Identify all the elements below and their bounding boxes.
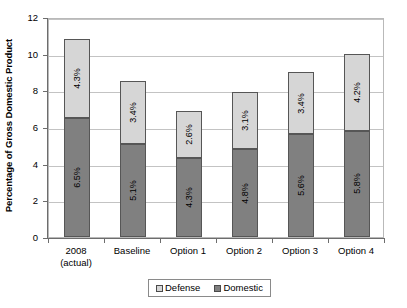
- bar-value-label: 5.8%: [352, 174, 361, 195]
- bar-value-label: 4.8%: [240, 183, 249, 204]
- y-tick-label: 4: [14, 160, 38, 170]
- y-tick-label: 2: [14, 196, 38, 206]
- legend-label-domestic: Domestic: [223, 283, 263, 293]
- x-axis-category-label-line1: Option 2: [226, 245, 262, 256]
- x-tick-mark: [48, 239, 49, 243]
- bar-segment-domestic[interactable]: 6.5%: [64, 118, 90, 237]
- x-axis-category-label-line1: Option 4: [338, 245, 374, 256]
- gridline: [49, 129, 383, 130]
- chart-legend: Defense Domestic: [148, 279, 271, 297]
- gridline: [49, 19, 383, 20]
- bar-segment-defense[interactable]: 3.1%: [232, 92, 258, 149]
- bar-group[interactable]: 5.1%3.4%: [120, 17, 146, 237]
- x-tick-mark: [160, 239, 161, 243]
- legend-swatch-domestic-icon: [214, 285, 221, 292]
- bar-value-label: 4.3%: [184, 187, 193, 208]
- bar-segment-defense[interactable]: 4.3%: [64, 39, 90, 118]
- gridline: [49, 92, 383, 93]
- bar-segment-domestic[interactable]: 5.6%: [288, 134, 314, 237]
- bar-value-label: 4.3%: [72, 68, 81, 89]
- bar-segment-domestic[interactable]: 5.1%: [120, 144, 146, 238]
- x-tick-mark: [104, 239, 105, 243]
- bar-segment-domestic[interactable]: 4.8%: [232, 149, 258, 237]
- y-tick-label: 10: [14, 50, 38, 60]
- bar-group[interactable]: 4.8%3.1%: [232, 17, 258, 237]
- bar-segment-defense[interactable]: 3.4%: [120, 81, 146, 143]
- x-axis-category-label-line1: 2008: [65, 245, 86, 256]
- plot-area: 6.5%4.3%5.1%3.4%4.3%2.6%4.8%3.1%5.6%3.4%…: [48, 18, 384, 238]
- gridline: [49, 166, 383, 167]
- legend-swatch-defense-icon: [156, 285, 163, 292]
- bar-value-label: 3.4%: [296, 93, 305, 114]
- y-tick-label: 6: [14, 123, 38, 133]
- x-axis-category-label-line1: Option 3: [282, 245, 318, 256]
- bar-segment-domestic[interactable]: 4.3%: [176, 158, 202, 237]
- bar-segment-domestic[interactable]: 5.8%: [344, 131, 370, 237]
- bar-value-label: 6.5%: [72, 167, 81, 188]
- bar-segment-defense[interactable]: 2.6%: [176, 111, 202, 159]
- bar-value-label: 2.6%: [184, 124, 193, 145]
- x-tick-mark: [384, 239, 385, 243]
- legend-item-domestic: Domestic: [214, 283, 263, 293]
- legend-label-defense: Defense: [165, 283, 200, 293]
- bar-value-label: 5.6%: [296, 175, 305, 196]
- bar-value-label: 3.1%: [240, 110, 249, 131]
- x-axis-category-label: Option 4: [316, 245, 396, 257]
- bar-value-label: 4.2%: [352, 82, 361, 103]
- y-tick-label: 0: [14, 233, 38, 243]
- bar-segment-defense[interactable]: 4.2%: [344, 54, 370, 131]
- stacked-bar-chart: Percentage of Gross Domestic Product 024…: [0, 0, 407, 308]
- x-tick-mark: [216, 239, 217, 243]
- bar-value-label: 3.4%: [128, 102, 137, 123]
- bar-value-label: 5.1%: [128, 180, 137, 201]
- bar-segment-defense[interactable]: 3.4%: [288, 72, 314, 134]
- x-axis-category-label-line1: Option 1: [170, 245, 206, 256]
- x-axis-category-label-line1: Baseline: [114, 245, 150, 256]
- y-tick-label: 8: [14, 86, 38, 96]
- x-tick-mark: [328, 239, 329, 243]
- bar-group[interactable]: 6.5%4.3%: [64, 17, 90, 237]
- y-tick-label: 12: [14, 13, 38, 23]
- bar-group[interactable]: 4.3%2.6%: [176, 17, 202, 237]
- gridline: [49, 202, 383, 203]
- x-axis-category-label-line2: (actual): [36, 257, 116, 269]
- bar-group[interactable]: 5.8%4.2%: [344, 17, 370, 237]
- gridline: [49, 56, 383, 57]
- legend-item-defense: Defense: [156, 283, 200, 293]
- bar-group[interactable]: 5.6%3.4%: [288, 17, 314, 237]
- x-tick-mark: [272, 239, 273, 243]
